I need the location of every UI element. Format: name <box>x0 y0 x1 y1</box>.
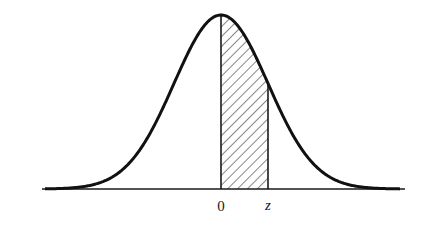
tick-label-z: z <box>265 197 271 214</box>
normal-curve-figure <box>0 0 435 231</box>
tick-label-zero: 0 <box>217 198 225 215</box>
shaded-area-0-to-z <box>221 15 268 189</box>
